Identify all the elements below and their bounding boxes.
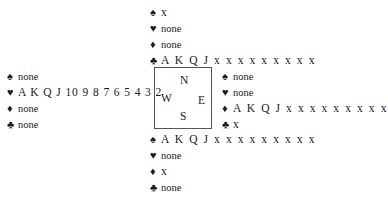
south-spades-row: ♠ A K Q J x x x x x x x x x	[150, 131, 316, 147]
west-spades-cards: none	[18, 69, 38, 85]
south-diamonds-row: ♦ x	[150, 163, 316, 179]
diamond-icon: ♦	[7, 100, 18, 116]
north-hand: ♠ x ♥ none ♦ none ♣ A K Q J x x x x x x …	[150, 4, 316, 68]
north-clubs-cards: A K Q J x x x x x x x x x	[161, 52, 316, 68]
east-clubs-cards: x	[233, 116, 240, 132]
north-hearts-cards: none	[161, 21, 181, 37]
south-diamonds-cards: x	[161, 163, 168, 179]
club-icon: ♣	[7, 116, 18, 132]
east-clubs-row: ♣ x	[222, 116, 388, 132]
diamond-icon: ♦	[222, 100, 233, 116]
east-spades-row: ♠ none	[222, 68, 388, 84]
east-hand: ♠ none ♥ none ♦ A K Q J x x x x x x x x …	[222, 68, 388, 132]
west-hearts-cards: A K Q J 10 9 8 7 6 5 4 3 2	[18, 84, 162, 100]
compass-north-label: N	[180, 74, 188, 86]
west-diamonds-cards: none	[18, 101, 38, 117]
diamond-icon: ♦	[150, 36, 161, 52]
south-hearts-cards: none	[161, 148, 181, 164]
south-clubs-cards: none	[161, 180, 181, 196]
north-hearts-row: ♥ none	[150, 20, 316, 36]
west-spades-row: ♠ none	[7, 68, 162, 84]
north-diamonds-cards: none	[161, 37, 181, 53]
west-clubs-cards: none	[18, 117, 38, 133]
north-spades-row: ♠ x	[150, 4, 316, 20]
south-hearts-row: ♥ none	[150, 147, 316, 163]
heart-icon: ♥	[7, 84, 18, 100]
south-spades-cards: A K Q J x x x x x x x x x	[161, 131, 316, 147]
north-spades-cards: x	[161, 4, 168, 20]
spade-icon: ♠	[222, 68, 233, 84]
east-diamonds-cards: A K Q J x x x x x x x x x	[233, 100, 388, 116]
west-clubs-row: ♣ none	[7, 116, 162, 132]
south-hand: ♠ A K Q J x x x x x x x x x ♥ none ♦ x ♣…	[150, 131, 316, 195]
east-hearts-cards: none	[233, 85, 253, 101]
club-icon: ♣	[150, 179, 161, 195]
west-diamonds-row: ♦ none	[7, 100, 162, 116]
north-diamonds-row: ♦ none	[150, 36, 316, 52]
heart-icon: ♥	[150, 20, 161, 36]
east-diamonds-row: ♦ A K Q J x x x x x x x x x	[222, 100, 388, 116]
club-icon: ♣	[150, 52, 161, 68]
diamond-icon: ♦	[150, 163, 161, 179]
north-clubs-row: ♣ A K Q J x x x x x x x x x	[150, 52, 316, 68]
club-icon: ♣	[222, 116, 233, 132]
west-hearts-row: ♥ A K Q J 10 9 8 7 6 5 4 3 2	[7, 84, 162, 100]
compass-south-label: S	[180, 110, 186, 122]
east-hearts-row: ♥ none	[222, 84, 388, 100]
spade-icon: ♠	[150, 131, 161, 147]
compass-box: N W E S	[154, 67, 212, 129]
south-clubs-row: ♣ none	[150, 179, 316, 195]
compass-east-label: E	[198, 94, 205, 106]
compass-west-label: W	[161, 92, 172, 104]
heart-icon: ♥	[222, 84, 233, 100]
spade-icon: ♠	[150, 4, 161, 20]
east-spades-cards: none	[233, 69, 253, 85]
heart-icon: ♥	[150, 147, 161, 163]
west-hand: ♠ none ♥ A K Q J 10 9 8 7 6 5 4 3 2 ♦ no…	[7, 68, 162, 132]
spade-icon: ♠	[7, 68, 18, 84]
